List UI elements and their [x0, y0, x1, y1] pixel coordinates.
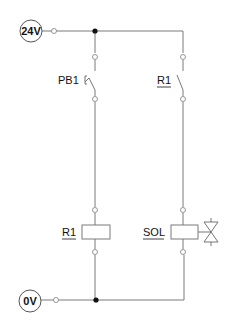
terminal [181, 250, 186, 255]
rung-1: PB1 R1 [58, 55, 110, 301]
terminal [93, 250, 98, 255]
supply-0v-label: 0V [23, 295, 37, 307]
terminal [93, 55, 98, 60]
r1-coil-label: R1 [62, 226, 76, 238]
relay-coil-r1 [82, 225, 110, 239]
terminal [181, 55, 186, 60]
solenoid-coil-sol [171, 225, 198, 239]
pushbutton-pb1-symbol [85, 76, 95, 90]
rung-2: R1 SOL [143, 55, 218, 301]
supply-24v: 24V [20, 20, 42, 42]
terminal [93, 208, 98, 213]
valve-icon [198, 218, 218, 246]
relay-contact-r1-symbol [177, 75, 183, 90]
supply-0v: 0V [19, 290, 41, 312]
sol-label: SOL [143, 226, 165, 238]
terminal [181, 97, 186, 102]
pb1-label: PB1 [58, 74, 79, 86]
r1-contact-label: R1 [157, 74, 171, 86]
supply-24v-label: 24V [21, 25, 41, 37]
terminal [93, 97, 98, 102]
junction-dot [93, 297, 98, 302]
ladder-diagram: 24V PB1 R1 R1 [0, 0, 231, 334]
terminal [181, 208, 186, 213]
terminal [54, 298, 59, 303]
junction-dot [92, 28, 97, 33]
terminal [52, 29, 57, 34]
